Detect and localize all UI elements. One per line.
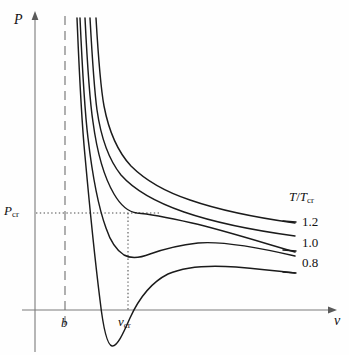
legend-title-subscript: cr	[307, 195, 314, 205]
p-axis-arrow-icon	[32, 11, 39, 20]
isotherm-curve-0-8	[77, 18, 295, 346]
legend-title: T/Tcr	[289, 190, 314, 205]
legend-leader-1-2	[283, 221, 296, 222]
pcr-tick-label: Pcr	[4, 204, 19, 219]
legend-value-1-0: 1.0	[302, 236, 318, 249]
pcr-label-subscript: cr	[12, 209, 19, 219]
isotherm-curve-1-2	[96, 18, 295, 223]
vcr-tick-label: vcr	[118, 315, 131, 330]
isotherm-curve-1-0	[85, 18, 295, 252]
legend-title-denominator: T	[300, 189, 307, 204]
legend-leader-1-0	[283, 250, 296, 251]
legend-value-1-2: 1.2	[302, 215, 318, 228]
pcr-label-main: P	[4, 203, 12, 218]
vcr-label-subscript: cr	[124, 320, 131, 330]
legend-leader-0-8	[283, 272, 296, 273]
van-der-waals-isotherm-figure: P v b vcr Pcr T/Tcr 1.2 1.0 0.8	[0, 0, 349, 355]
y-axis-label: P	[14, 13, 23, 27]
plot-canvas	[0, 0, 349, 355]
x-axis-label: v	[334, 314, 340, 328]
b-tick-label: b	[61, 316, 68, 329]
legend-value-0-8: 0.8	[302, 256, 318, 269]
